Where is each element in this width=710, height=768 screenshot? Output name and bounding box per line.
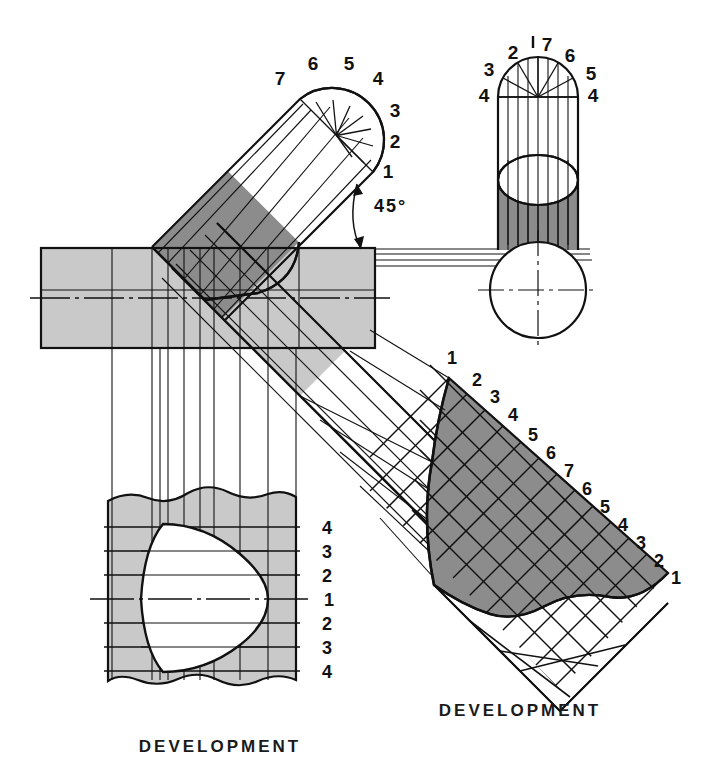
devright-number-2b: 2 <box>654 551 664 571</box>
devright-number-2a: 2 <box>472 370 482 390</box>
devleft-number-4-top: 4 <box>322 518 332 538</box>
development-left-title: DEVELOPMENT <box>139 737 301 756</box>
technical-drawing-page: 45° 7 6 5 4 3 2 1 <box>0 0 710 768</box>
devleft-number-3-bottom: 3 <box>322 638 332 658</box>
devright-number-6a: 6 <box>546 443 556 463</box>
inclined-number-3: 3 <box>390 100 401 121</box>
inclined-number-7: 7 <box>275 68 286 89</box>
devright-number-7: 7 <box>564 461 574 481</box>
development-right-title: DEVELOPMENT <box>439 701 601 720</box>
development-right-surface <box>427 378 668 617</box>
tr-number-5: 5 <box>586 63 597 84</box>
devright-number-5a: 5 <box>528 425 538 445</box>
devright-number-3b: 3 <box>636 533 646 553</box>
inclined-number-6: 6 <box>308 53 319 74</box>
devleft-number-2-bottom: 2 <box>322 614 332 634</box>
tr-number-3: 3 <box>484 59 495 80</box>
inclined-number-1: 1 <box>383 161 394 182</box>
devleft-number-2-top: 2 <box>322 566 332 586</box>
inclined-number-4: 4 <box>373 68 384 89</box>
devright-number-4b: 4 <box>618 515 628 535</box>
devright-number-5b: 5 <box>600 497 610 517</box>
tr-number-4-right: 4 <box>588 85 599 106</box>
tr-number-2: 2 <box>508 42 519 63</box>
devright-number-1a: 1 <box>447 348 457 368</box>
devleft-number-4-bottom: 4 <box>322 662 332 682</box>
inclined-number-5: 5 <box>344 53 355 74</box>
angle-label: 45° <box>374 196 407 216</box>
angle-dimension-45 <box>353 184 364 249</box>
devright-number-6b: 6 <box>582 479 592 499</box>
devleft-number-3-top: 3 <box>322 542 332 562</box>
drawing-canvas: 45° 7 6 5 4 3 2 1 <box>0 0 710 768</box>
top-right-view <box>478 57 598 350</box>
development-left-numbers: 4 3 2 1 2 3 4 <box>322 518 334 682</box>
devright-number-4a: 4 <box>508 405 518 425</box>
devleft-number-1: 1 <box>324 590 334 610</box>
devright-number-3a: 3 <box>490 387 500 407</box>
devright-number-1b: 1 <box>671 568 681 588</box>
inclined-number-2: 2 <box>390 131 401 152</box>
tr-number-6: 6 <box>565 45 576 66</box>
tr-number-4-left: 4 <box>479 85 490 106</box>
tr-number-7: 7 <box>542 34 553 55</box>
